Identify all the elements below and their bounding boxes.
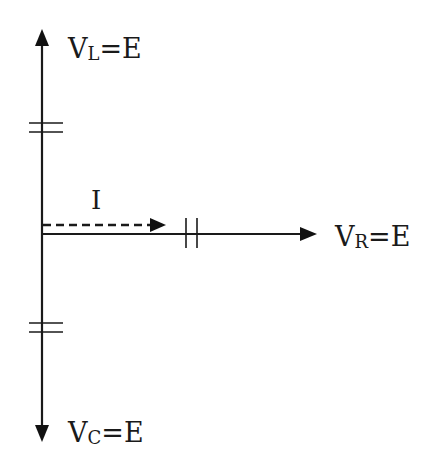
- vc-arrowhead-icon: [35, 425, 49, 442]
- vr-subscript: R: [355, 231, 369, 252]
- vc-subscript: C: [88, 427, 102, 448]
- current-label: I: [91, 185, 101, 215]
- vl-symbol: V: [67, 33, 88, 64]
- phasor-diagram: VL=E I VR=E VC=E: [0, 0, 443, 469]
- vr-symbol: V: [334, 221, 355, 252]
- vl-equal-length-marks: [29, 123, 63, 132]
- vl-arrowhead-icon: [35, 29, 49, 46]
- current-arrowhead-icon: [150, 218, 166, 232]
- vr-label: VR=E: [334, 221, 410, 252]
- vc-label: VC=E: [67, 417, 144, 448]
- vc-equals-value: =E: [101, 417, 143, 448]
- vl-subscript: L: [88, 43, 100, 64]
- vr-arrowhead-icon: [300, 227, 317, 241]
- vc-symbol: V: [67, 417, 88, 448]
- vl-label: VL=E: [67, 33, 142, 64]
- vl-equals-value: =E: [99, 33, 141, 64]
- vr-equals-value: =E: [368, 221, 410, 252]
- vc-equal-length-marks: [29, 323, 63, 332]
